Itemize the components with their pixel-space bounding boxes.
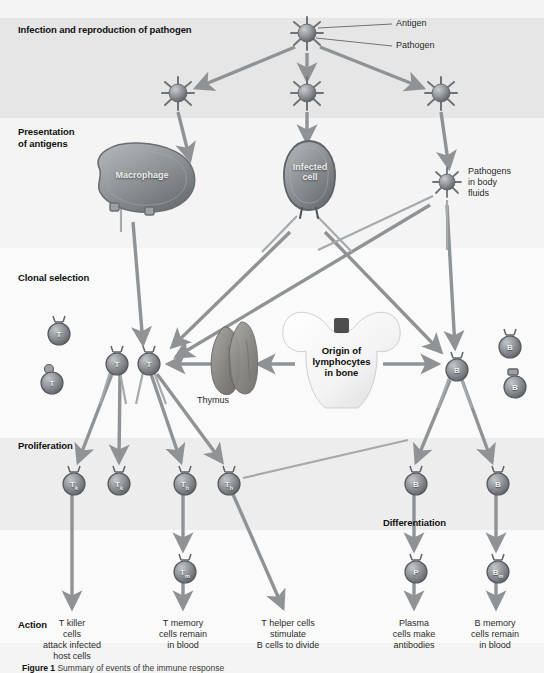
proliferation-tk-cell-1: Tk — [59, 464, 89, 502]
t-naive-cell-1: T — [44, 314, 74, 352]
figure-caption-text: Summary of events of the immune response — [57, 663, 224, 673]
figure-caption-number: Figure 1 — [22, 663, 55, 673]
stage-label-clonal: Clonal selection — [18, 272, 89, 284]
b-memory-cell: Bm — [483, 552, 513, 590]
t-selected-cell-2: T — [134, 344, 164, 382]
pathogen-right — [421, 73, 461, 117]
pathogen-left — [158, 73, 198, 117]
stage-label-differentiation: Differentiation — [383, 517, 446, 529]
stage-label-presentation: Presentation of antigens — [18, 126, 74, 149]
arrow-replicate-left — [196, 47, 295, 88]
arrow-t-prolif-2 — [119, 374, 120, 462]
b-naive-cell-1: B — [495, 327, 525, 365]
proliferation-tk-cell-2: Tk — [104, 464, 134, 502]
action-label-t-memory: T memory cells remain in blood — [135, 618, 231, 651]
antigen-callout: Antigen — [396, 18, 427, 29]
leader-pathogen — [316, 38, 392, 46]
arrow-t-prolif-1 — [78, 374, 112, 462]
action-label-plasma: Plasma cells make antibodies — [370, 618, 458, 651]
action-label-t-helper: T helper cells stimulate B cells to divi… — [232, 618, 344, 651]
proliferation-th-cell-1: Th — [170, 464, 200, 502]
immune-response-figure: Macrophage Infected cell Origin of lymph… — [0, 0, 544, 673]
action-label-b-memory: B memory cells remain in blood — [450, 618, 540, 651]
stage-label-proliferation: Proliferation — [18, 440, 73, 452]
connector-th-to-b — [243, 440, 408, 478]
plasma-cell: P — [401, 552, 431, 590]
proliferation-b-cell-2: B — [483, 464, 513, 502]
t-selected-cell-1: T — [102, 344, 132, 382]
b-selected-cell: B — [442, 350, 472, 388]
leader-antigen — [318, 24, 392, 28]
pathogen-mid — [287, 73, 327, 117]
pathogen-in-body-fluids — [429, 164, 465, 204]
b-naive-cell-2: B — [500, 367, 530, 405]
infected-cell: Infected cell — [279, 138, 341, 224]
arrow-layer — [0, 0, 544, 673]
pathogen-callout: Pathogen — [396, 40, 435, 51]
arrow-macrophage-to-t — [133, 222, 143, 344]
pathogens-body-fluids-callout: Pathogens in body fluids — [468, 166, 511, 199]
arrow-replicate-right — [320, 47, 423, 88]
proliferation-th-cell-2: Th — [214, 464, 244, 502]
thymus-callout: Thymus — [197, 395, 229, 406]
stage-label-infection: Infection and reproduction of pathogen — [18, 24, 192, 36]
t-memory-cell: Tm — [170, 552, 200, 590]
pathogen-parent — [287, 13, 327, 57]
macrophage-cell: Macrophage — [82, 140, 202, 224]
arrow-to-fluidpath — [441, 112, 449, 168]
proliferation-b-cell-1: B — [401, 464, 431, 502]
action-label-t-killer: T killer cells attack infected host cell… — [27, 618, 117, 662]
bone-graphic — [283, 312, 400, 408]
t-naive-cell-2: T — [37, 362, 67, 400]
arrow-fluid-to-b — [447, 205, 455, 348]
figure-caption: Figure 1 Summary of events of the immune… — [22, 663, 224, 673]
arrow-th-action — [232, 492, 283, 608]
